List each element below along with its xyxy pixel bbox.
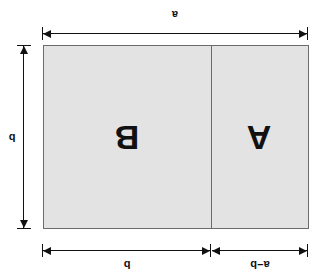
- top-right-arrowhead-end: [43, 247, 51, 255]
- right-extension-cap-top: [17, 228, 31, 229]
- right-vertical-arrowhead-top: [20, 220, 28, 228]
- right-vertical-arrowhead-bottom: [20, 46, 28, 54]
- region-label-a: A: [237, 121, 281, 155]
- bottom-dimension-line: [43, 33, 307, 34]
- bottom-arrowhead-start: [299, 30, 307, 38]
- figure-root: A B a−b b b a: [0, 0, 329, 274]
- dimension-label-b-right: b: [5, 132, 19, 143]
- top-left-arrowhead-start: [299, 247, 307, 255]
- bottom-arrowhead-end: [43, 30, 51, 38]
- top-extension-cap-left: [307, 244, 308, 257]
- dimension-label-a-minus-b: a−b: [230, 259, 290, 270]
- rotated-figure-canvas: A B a−b b b a: [0, 0, 329, 274]
- top-extension-cap-middle: [210, 244, 211, 257]
- top-left-dimension-line: [212, 250, 307, 251]
- dimension-label-b-top: b: [97, 259, 157, 270]
- top-left-arrowhead-end: [212, 247, 220, 255]
- dimension-label-a-bottom: a: [145, 9, 205, 20]
- bottom-extension-cap-left: [307, 27, 308, 40]
- right-vertical-dimension-line: [23, 46, 24, 228]
- region-divider-line: [211, 45, 212, 229]
- top-right-arrowhead-start: [202, 247, 210, 255]
- region-label-b: B: [105, 121, 149, 155]
- top-right-dimension-line: [43, 250, 210, 251]
